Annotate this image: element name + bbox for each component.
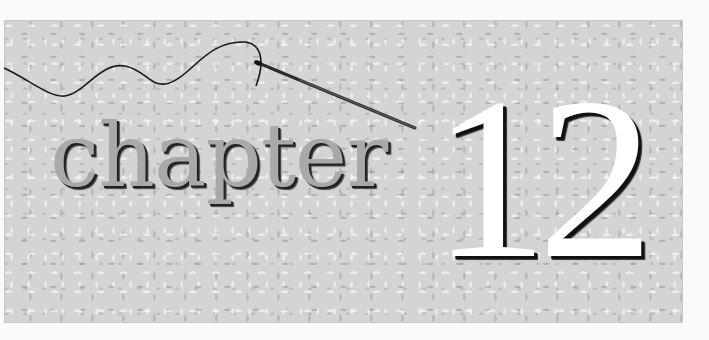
chapter-number: 12 [432,62,644,294]
chapter-label: chapter [50,112,387,200]
